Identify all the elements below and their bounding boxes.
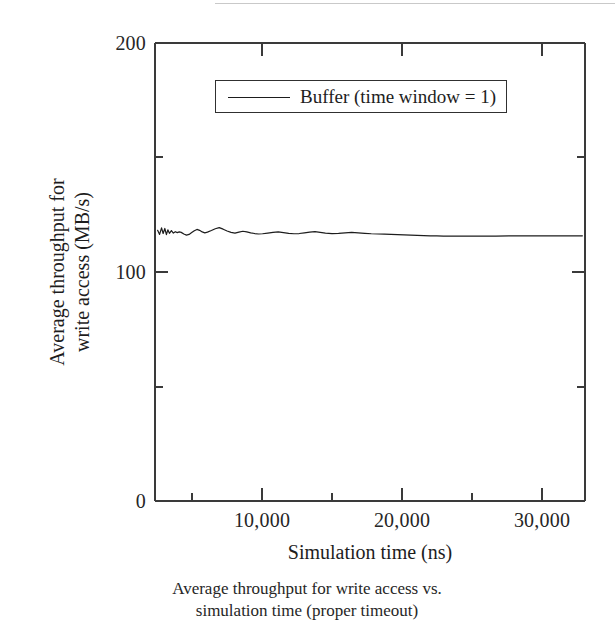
y-axis-ticks — [155, 157, 585, 387]
figure-caption-line-1: Average throughput for write access vs. — [57, 578, 557, 600]
figure-caption-line-2: simulation time (proper timeout) — [57, 600, 557, 622]
y-axis-title-line-2: write access (MB/s) — [70, 57, 95, 487]
x-axis-title: Simulation time (ns) — [155, 541, 585, 563]
y-tick-label-200: 200 — [88, 33, 146, 53]
y-tick-label-0: 0 — [88, 491, 146, 511]
y-axis-title: Average throughput for write access (MB/… — [45, 57, 95, 487]
y-tick-label-100: 100 — [88, 262, 146, 282]
x-tick-label-30000: 30,000 — [482, 510, 602, 530]
legend-box: Buffer (time window = 1) — [215, 80, 507, 113]
figure-caption: Average throughput for write access vs. … — [57, 578, 557, 622]
legend-line-sample-icon — [228, 91, 290, 103]
legend-entry-label: Buffer (time window = 1) — [290, 87, 506, 106]
y-axis-title-line-1: Average throughput for — [45, 57, 70, 487]
x-tick-label-10000: 10,000 — [202, 510, 322, 530]
figure-chart-write-throughput: 200 100 0 10,000 20,000 30,000 Simulatio… — [0, 0, 615, 635]
x-tick-label-20000: 20,000 — [342, 510, 462, 530]
data-series-buffer-time-window-1 — [158, 228, 583, 236]
